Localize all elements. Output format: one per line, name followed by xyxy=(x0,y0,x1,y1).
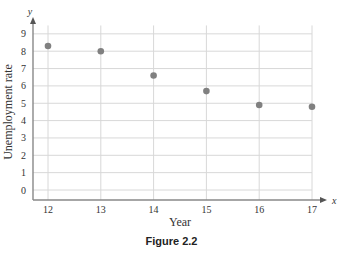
y-axis-label: Unemployment rate xyxy=(1,64,15,160)
y-axis-variable: y xyxy=(27,6,33,17)
x-tick-labels: 121314151617 xyxy=(43,204,317,215)
x-axis-label: Year xyxy=(169,215,191,229)
x-tick-label: 17 xyxy=(307,204,317,215)
y-tick-label: 4 xyxy=(21,115,26,126)
x-tick-label: 16 xyxy=(254,204,264,215)
y-tick-label: 2 xyxy=(21,150,26,161)
y-tick-label: 3 xyxy=(21,132,26,143)
figure-caption: Figure 2.2 xyxy=(0,235,343,247)
x-axis-variable: x xyxy=(331,195,337,206)
axes xyxy=(30,17,327,203)
data-point xyxy=(150,72,157,79)
y-tick-label: 8 xyxy=(21,46,26,57)
y-tick-label: 6 xyxy=(21,80,26,91)
y-tick-label: 9 xyxy=(21,28,26,39)
y-tick-label: 5 xyxy=(21,98,26,109)
data-point xyxy=(203,88,210,95)
x-tick-label: 14 xyxy=(149,204,159,215)
data-points xyxy=(45,43,316,110)
data-point xyxy=(309,103,316,110)
scatter-chart: 0123456789 121314151617 Year Unemploymen… xyxy=(0,0,343,235)
x-tick-label: 12 xyxy=(43,204,53,215)
y-tick-label: 0 xyxy=(21,185,26,196)
gridlines xyxy=(33,25,312,200)
data-point xyxy=(98,48,105,55)
y-tick-label: 7 xyxy=(21,63,26,74)
x-axis-arrow-icon xyxy=(320,197,327,203)
data-point xyxy=(256,102,263,109)
x-tick-label: 13 xyxy=(96,204,106,215)
x-tick-label: 15 xyxy=(201,204,211,215)
data-point xyxy=(45,43,52,50)
y-tick-label: 1 xyxy=(21,167,26,178)
y-tick-labels: 0123456789 xyxy=(21,28,26,195)
y-axis-arrow-icon xyxy=(30,17,36,24)
